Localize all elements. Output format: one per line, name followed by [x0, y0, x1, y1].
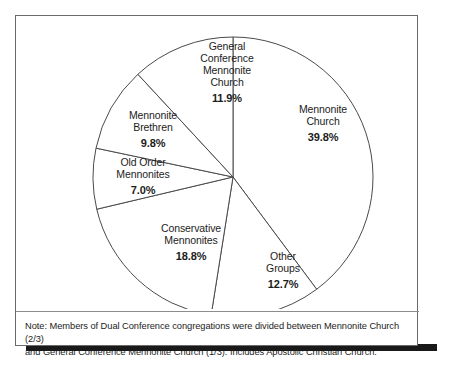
- pie-label-old-order-mennonites: Old Order Mennonites 7.0%: [88, 157, 198, 196]
- chart-footnote-line: and General Conference Mennonite Church …: [25, 346, 413, 359]
- pie-label-value: 11.9%: [168, 92, 286, 105]
- pie-label-value: 9.8%: [98, 137, 208, 150]
- pie-label-value: 7.0%: [88, 184, 198, 197]
- pie-label-value: 39.8%: [264, 131, 382, 144]
- pie-label-general-conference-mennonite-church: General Conference Mennonite Church 11.9…: [168, 41, 286, 104]
- pie-label-other-groups: Other Groups 12.7%: [228, 251, 338, 290]
- pie-label-text: Brethren: [98, 122, 208, 134]
- pie-label-mennonite-church: Mennonite Church 39.8%: [264, 104, 382, 143]
- pie-label-text: Mennonites: [88, 169, 198, 181]
- pie-label-text: Groups: [228, 263, 338, 275]
- pie-label-text: Mennonites: [126, 235, 256, 247]
- chart-footnote-line: Note: Members of Dual Conference congreg…: [25, 320, 413, 346]
- pie-chart: General Conference Mennonite Church 11.9…: [16, 16, 419, 309]
- chart-footnote: Note: Members of Dual Conference congreg…: [16, 311, 419, 347]
- pie-label-text: Church: [264, 116, 382, 128]
- pie-label-value: 12.7%: [228, 278, 338, 291]
- figure-root: General Conference Mennonite Church 11.9…: [0, 0, 465, 370]
- pie-label-mennonite-brethren: Mennonite Brethren 9.8%: [98, 110, 208, 149]
- pie-label-text: Church: [168, 77, 286, 89]
- chart-footnote-text: Note: Members of Dual Conference congreg…: [25, 320, 413, 360]
- figure-frame: General Conference Mennonite Church 11.9…: [15, 15, 418, 346]
